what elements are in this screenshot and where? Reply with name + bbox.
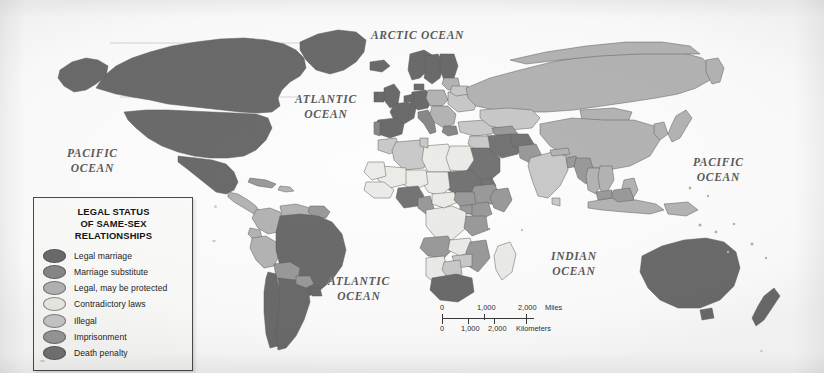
country-sri-lanka — [552, 198, 560, 206]
scale-ruler — [440, 314, 566, 323]
country-tanzania — [464, 216, 488, 236]
region-north-asia — [466, 42, 724, 112]
scale-km-unit: Kilometers — [516, 324, 551, 333]
legend-swatch-imprisonment — [43, 330, 66, 344]
country-central-america — [228, 192, 260, 214]
region-north-america — [58, 30, 366, 214]
map-figure: ARCTIC OCEAN ATLANTIC OCEAN PACIFIC OCEA… — [0, 0, 824, 373]
region-south-america — [248, 204, 346, 350]
country-hispaniola — [278, 186, 294, 192]
country-india — [528, 152, 568, 198]
legend-swatch-contradictory-laws — [43, 297, 66, 311]
country-greenland — [300, 30, 366, 74]
legend-item-legal-may-be-protected: Legal, may be protected — [43, 280, 184, 296]
country-papua-new-guinea — [664, 202, 698, 216]
country-ireland — [374, 92, 384, 102]
legend-item-death-penalty: Death penalty — [43, 345, 184, 361]
legend-label-illegal: Illegal — [74, 316, 97, 326]
scale-miles-unit: Miles — [545, 303, 562, 312]
country-united-states — [124, 110, 272, 158]
legend-label-legal-marriage: Legal marriage — [74, 251, 132, 261]
country-denmark — [414, 84, 424, 90]
map-legend: LEGAL STATUS OF SAME-SEX RELATIONSHIPS L… — [33, 197, 193, 371]
scale-miles-labels: 0 1,000 2,000 Miles — [440, 303, 566, 313]
country-cuba — [248, 178, 276, 188]
country-mexico — [178, 156, 238, 194]
legend-item-legal-marriage: Legal marriage — [43, 248, 184, 264]
legend-label-imprisonment: Imprisonment — [74, 332, 127, 342]
scale-kilometers-labels: 0 1,000 2,000 Kilometers — [440, 324, 566, 334]
legend-item-imprisonment: Imprisonment — [43, 329, 184, 345]
country-japan — [668, 110, 692, 142]
legend-swatch-death-penalty — [43, 346, 66, 360]
country-australia — [640, 238, 740, 308]
country-iceland — [370, 60, 390, 72]
legend-item-illegal: Illegal — [43, 312, 184, 328]
scale-miles-tick-0: 0 — [440, 303, 444, 312]
country-somalia — [490, 188, 512, 212]
legend-swatch-marriage-substitute — [43, 265, 66, 279]
legend-swatch-legal-may-be-protected — [43, 281, 66, 295]
country-south-africa — [430, 274, 474, 302]
legend-label-marriage-substitute: Marriage substitute — [74, 267, 148, 277]
legend-title: LEGAL STATUS OF SAME-SEX RELATIONSHIPS — [43, 206, 184, 242]
scale-km-tick-1: 1,000 — [461, 324, 480, 333]
scale-tick-miles-1 — [484, 314, 485, 320]
legend-item-marriage-substitute: Marriage substitute — [43, 264, 184, 280]
scale-ruler-line — [442, 318, 534, 319]
country-russia — [466, 50, 714, 112]
country-uruguay — [310, 288, 322, 296]
legend-item-contradictory-laws: Contradictory laws — [43, 296, 184, 312]
legend-label-legal-may-be-protected: Legal, may be protected — [74, 283, 167, 293]
country-madagascar — [494, 242, 516, 280]
country-greece — [442, 126, 458, 136]
country-tasmania — [700, 308, 714, 320]
country-malaysia — [596, 190, 612, 200]
country-portugal — [374, 122, 380, 136]
legend-label-death-penalty: Death penalty — [74, 348, 128, 358]
scale-miles-tick-1: 1,000 — [477, 303, 496, 312]
country-poland — [426, 90, 448, 106]
legend-swatch-legal-marriage — [43, 249, 66, 263]
country-new-zealand — [752, 288, 780, 326]
scale-km-tick-2: 2,000 — [488, 324, 507, 333]
region-oceania — [640, 238, 780, 326]
country-benelux — [404, 94, 414, 102]
country-tunisia — [420, 138, 428, 148]
scale-bar: 0 1,000 2,000 Miles 0 1,000 2,000 Kilome… — [440, 303, 566, 334]
country-dr-congo — [426, 206, 466, 240]
legend-label-contradictory-laws: Contradictory laws — [74, 299, 146, 309]
country-argentina — [276, 278, 310, 350]
scale-km-tick-0: 0 — [440, 324, 444, 333]
legend-swatch-illegal — [43, 314, 66, 328]
country-peru — [250, 236, 280, 268]
country-finland — [440, 54, 458, 80]
region-east-asia — [528, 108, 698, 216]
country-canada — [96, 38, 306, 113]
country-south-sudan — [454, 192, 476, 206]
scale-miles-tick-2: 2,000 — [518, 303, 537, 312]
